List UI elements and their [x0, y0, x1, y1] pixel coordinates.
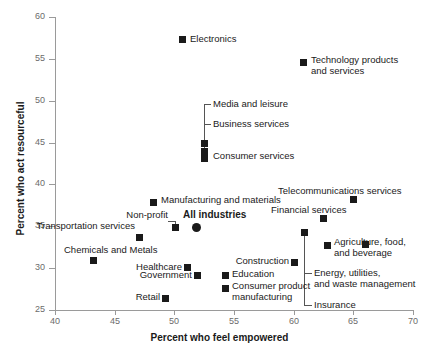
label-insurance: Insurance: [314, 300, 356, 311]
leader-line-nonprofit-horizontal: [168, 221, 176, 222]
marker-construction[interactable]: [291, 259, 298, 266]
marker-all-industries[interactable]: [192, 223, 201, 232]
marker-telecommunications-services[interactable]: [350, 196, 357, 203]
y-tick-45: [49, 143, 55, 144]
x-tick-label-55: 55: [219, 316, 249, 326]
x-tick-65: [353, 310, 354, 315]
y-tick-label-30: 30: [21, 262, 45, 272]
leader-line-insurance: [304, 305, 312, 306]
label-technology-products: Technology products and services: [311, 55, 398, 76]
y-tick-55: [49, 59, 55, 60]
label-business-services: Business services: [213, 119, 289, 130]
marker-retail[interactable]: [162, 295, 169, 302]
label-non-profit: Non-profit: [98, 210, 168, 221]
x-tick-50: [174, 310, 175, 315]
x-tick-label-65: 65: [338, 316, 368, 326]
x-tick-45: [115, 310, 116, 315]
marker-government[interactable]: [194, 272, 201, 279]
label-construction: Construction: [205, 256, 289, 267]
marker-chemicals-and-metals[interactable]: [90, 257, 97, 264]
leader-line-business: [204, 124, 211, 125]
marker-transportation-services[interactable]: [136, 234, 143, 241]
x-tick-55: [234, 310, 235, 315]
marker-manufacturing-and-materials[interactable]: [150, 199, 157, 206]
marker-non-profit[interactable]: [172, 224, 179, 231]
leader-line-energy: [304, 273, 312, 274]
x-tick-60: [294, 310, 295, 315]
label-electronics: Electronics: [190, 34, 236, 45]
label-manufacturing-and-materials: Manufacturing and materials: [161, 195, 281, 206]
y-tick-label-25: 25: [21, 304, 45, 314]
marker-media-and-leisure[interactable]: [201, 140, 208, 147]
scatter-chart: 60 55 50 45 40 35 30 25 40 45 50 55 60 6…: [0, 0, 439, 355]
x-tick-label-45: 45: [100, 316, 130, 326]
x-tick-label-40: 40: [40, 316, 70, 326]
y-tick-50: [49, 101, 55, 102]
x-tick-70: [413, 310, 414, 315]
x-tick-label-50: 50: [159, 316, 189, 326]
marker-financial-services[interactable]: [320, 215, 327, 222]
label-consumer-services: Consumer services: [213, 151, 294, 162]
leader-line-media: [204, 104, 211, 105]
y-tick-60: [49, 17, 55, 18]
label-financial-services: Financial services: [271, 205, 347, 216]
label-energy-utilities: Energy, utilities, and waste management: [314, 268, 415, 289]
y-axis-line: [55, 17, 56, 310]
marker-agriculture-food-beverage[interactable]: [324, 242, 331, 249]
label-consumer-product-manufacturing: Consumer product manufacturing: [232, 281, 310, 302]
y-tick-40: [49, 184, 55, 185]
marker-consumer-product-manufacturing[interactable]: [222, 285, 229, 292]
y-tick-label-55: 55: [21, 53, 45, 63]
y-tick-label-60: 60: [21, 11, 45, 21]
y-tick-30: [49, 268, 55, 269]
label-education: Education: [232, 269, 274, 280]
x-tick-40: [55, 310, 56, 315]
x-axis-title: Percent who feel empowered: [0, 332, 439, 343]
x-tick-label-70: 70: [398, 316, 428, 326]
marker-energy-utilities[interactable]: [301, 229, 308, 236]
label-agriculture-food-beverage: Agriculture, food, and beverage: [334, 237, 406, 258]
label-government: Government: [104, 270, 192, 281]
label-retail: Retail: [102, 292, 160, 303]
marker-electronics[interactable]: [179, 36, 186, 43]
marker-business-services[interactable]: [201, 148, 208, 155]
marker-consumer-services[interactable]: [201, 155, 208, 162]
label-all-industries: All industries: [183, 210, 246, 221]
marker-education[interactable]: [222, 272, 229, 279]
marker-technology-products[interactable]: [300, 59, 307, 66]
label-telecommunications-services: Telecommunications services: [278, 186, 402, 197]
label-chemicals-and-metals: Chemicals and Metals: [64, 245, 157, 256]
label-media-and-leisure: Media and leisure: [213, 99, 288, 110]
y-axis-title: Percent who act resourceful: [15, 89, 26, 249]
label-transportation-services: Transportation services: [25, 221, 135, 232]
x-tick-label-60: 60: [279, 316, 309, 326]
